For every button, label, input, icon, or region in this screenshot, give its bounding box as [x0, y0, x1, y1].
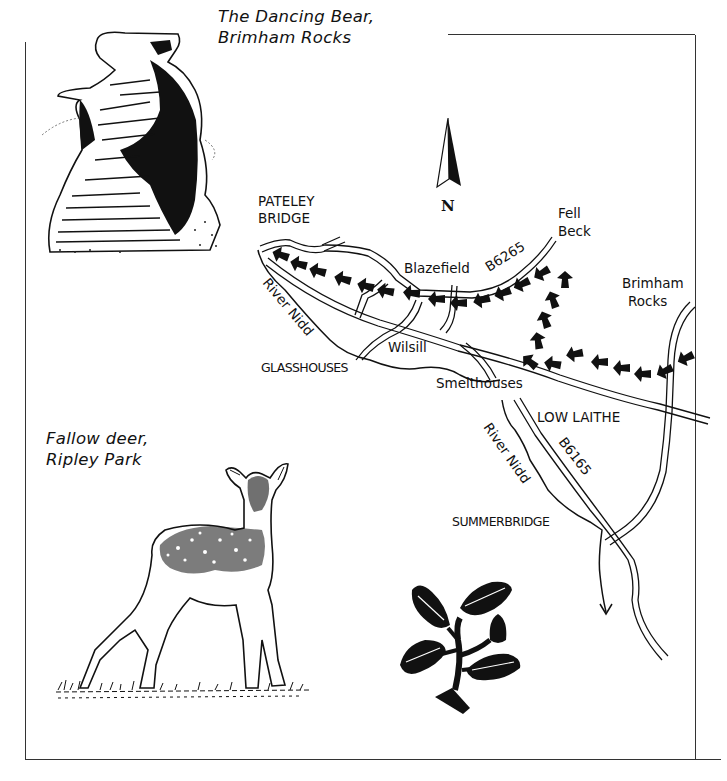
dancing-bear-rock-icon [42, 32, 220, 253]
label-b6265: B6265 [482, 238, 527, 275]
label-low-laithe: LOW LAITHE [537, 409, 620, 425]
label-brimham-line2: Rocks [628, 293, 667, 309]
label-fell-beck-line2: Beck [558, 223, 591, 239]
label-glasshouses: GLASSHOUSES [261, 360, 349, 375]
label-pateley-line1: PATELEY [258, 193, 315, 209]
label-river-nidd-upper: River Nidd [260, 275, 317, 339]
label-summerbridge: SUMMERBRIDGE [452, 514, 550, 529]
label-river-nidd-lower: River Nidd [481, 420, 534, 487]
fallow-deer-icon [56, 464, 310, 698]
label-wilsill: Wilsill [388, 339, 427, 355]
north-label: N [441, 197, 455, 215]
label-smelthouses: Smelthouses [436, 375, 523, 391]
north-arrow-icon [437, 118, 461, 187]
label-fell-beck-line1: Fell [558, 205, 581, 221]
label-pateley-line2: BRIDGE [258, 210, 310, 226]
route-map: N [0, 0, 727, 781]
label-blazefield: Blazefield [404, 260, 470, 276]
label-brimham-line1: Brimham [622, 275, 684, 291]
oak-sprig-icon [400, 582, 520, 714]
